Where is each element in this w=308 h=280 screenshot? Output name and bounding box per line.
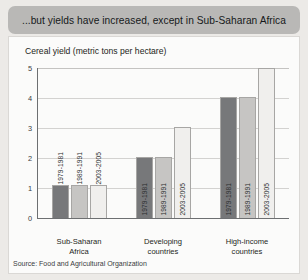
bar-period-label: 1979-1981 [141,183,148,215]
bar[interactable]: 1989-1991 [155,157,172,219]
y-axis-tick: 2 [28,154,32,163]
plot-area: 1979-19811989-19912003-20051979-19811989… [37,68,289,219]
chart-card: Cereal yield (metric tons per hectare) 0… [8,36,300,274]
bar[interactable]: 2003-2005 [174,127,191,219]
bar[interactable]: 1989-1991 [71,185,88,218]
headline-banner: ...but yields have increased, except in … [8,6,300,34]
bar-period-label: 2003-2005 [95,152,102,184]
bar-period-label: 1979-1981 [57,152,64,184]
bar-period-label: 1989-1991 [244,183,251,215]
plot-wrapper: 012345 1979-19811989-19912003-20051979-1… [21,68,289,233]
bar-group: 1979-19811989-19912003-2005 [136,68,191,218]
bar-period-label: 1979-1981 [225,183,232,215]
y-axis-tick: 4 [28,94,32,103]
y-axis-tick: 3 [28,124,32,133]
bar[interactable]: 1989-1991 [239,97,256,219]
y-axis-tick: 5 [28,64,32,73]
bar[interactable]: 2003-2005 [90,185,107,218]
category-label: Sub-SaharanAfrica [37,237,121,257]
source-note: Source: Food and Agricultural Organizati… [13,260,147,267]
category-label: High-incomecountries [205,237,289,257]
category-labels: Sub-SaharanAfricaDevelopingcountriesHigh… [37,237,289,257]
y-axis-tick: 1 [28,184,32,193]
bar[interactable]: 1979-1981 [220,97,237,219]
bar-period-label: 1989-1991 [76,152,83,184]
y-axis: 012345 [21,68,35,218]
y-axis-tick: 0 [28,214,32,223]
bar[interactable]: 1979-1981 [136,157,153,219]
bar-group: 1979-19811989-19912003-2005 [220,68,275,218]
headline-text: ...but yields have increased, except in … [22,15,286,26]
bar-groups: 1979-19811989-19912003-20051979-19811989… [38,68,289,218]
bar-period-label: 2003-2005 [263,183,270,215]
bar[interactable]: 2003-2005 [258,68,275,218]
screenshot-root: ...but yields have increased, except in … [0,0,308,280]
category-label: Developingcountries [121,237,205,257]
bar-period-label: 1989-1991 [160,183,167,215]
chart-title: Cereal yield (metric tons per hectare) [25,46,166,56]
bar-group: 1979-19811989-19912003-2005 [52,68,107,218]
bar[interactable]: 1979-1981 [52,185,69,218]
bar-period-label: 2003-2005 [179,183,186,215]
